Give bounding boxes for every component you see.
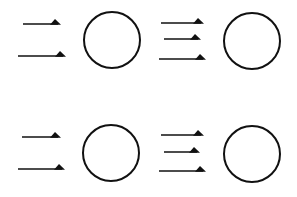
arrowhead-icon	[50, 132, 61, 138]
arrowhead-icon	[195, 166, 206, 172]
diagram-canvas	[0, 0, 297, 197]
circle-shape	[84, 12, 140, 68]
arrowhead-icon	[54, 164, 65, 170]
arrowhead-icon	[193, 18, 204, 24]
arrow-group-top-left	[18, 12, 140, 68]
arrowhead-icon	[195, 54, 206, 60]
circle-shape	[83, 125, 139, 181]
arrowhead-icon	[193, 130, 204, 136]
arrow-group-bottom-right	[159, 126, 280, 182]
arrow-group-top-right	[159, 13, 280, 69]
arrowhead-icon	[190, 34, 201, 40]
circle-shape	[224, 13, 280, 69]
arrow-group-bottom-left	[18, 125, 139, 181]
arrowhead-icon	[55, 51, 66, 57]
arrowhead-icon	[50, 19, 61, 25]
circle-shape	[224, 126, 280, 182]
arrowhead-icon	[189, 147, 200, 153]
